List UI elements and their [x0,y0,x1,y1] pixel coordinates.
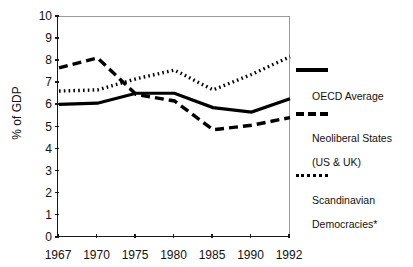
x-axis-tick-mark [288,234,290,238]
y-axis-tick-label: 4 [26,143,52,155]
y-axis-title: % of GDP [10,78,24,148]
y-axis-tick-mark [55,170,59,172]
x-axis-tick-mark [134,234,136,238]
legend-label-neoliberal-states-line1: Neoliberal States [312,132,392,144]
x-axis-tick-mark [250,234,252,238]
y-axis-tick-label: 1 [26,209,52,221]
y-axis-tick-label: 0 [26,231,52,243]
y-axis-tick-mark [55,81,59,83]
x-axis-tick-mark [57,234,59,238]
legend-label-scandinavian-democracies-line2: Democracies* [312,218,377,230]
y-axis-tick-label: 6 [26,98,52,110]
legend-label-oecd-average: OECD Average [312,90,384,102]
chart-root: % of GDP 012345678910 196719701975198019… [0,0,413,267]
y-axis-tick-mark [55,214,59,216]
legend-label-neoliberal-states-line2: (US & UK) [312,156,361,168]
plot-area [57,16,290,237]
x-axis-tick-mark [211,234,213,238]
y-axis-tick-label: 10 [26,10,52,22]
legend-swatch-oecd-average [296,68,328,72]
y-axis-tick-mark [55,126,59,128]
y-axis-tick-label: 7 [26,76,52,88]
y-axis-tick-label: 2 [26,187,52,199]
legend-label-scandinavian-democracies-line1: Scandinavian [312,194,375,206]
series-line-scandinavian-democracies [59,57,290,91]
y-axis-tick-mark [55,37,59,39]
y-axis-tick-label: 5 [26,121,52,133]
x-axis-tick-mark [96,234,98,238]
y-axis-tick-mark [55,59,59,61]
y-axis-tick-mark [55,192,59,194]
y-axis-tick-mark [55,148,59,150]
y-axis-tick-mark [55,103,59,105]
x-axis-tick-label: 1992 [264,249,314,261]
y-axis-tick-mark [55,15,59,17]
legend-swatch-neoliberal-states [296,112,328,116]
y-axis-tick-label: 8 [26,54,52,66]
y-axis-tick-label: 9 [26,32,52,44]
chart-legend: OECD Average Neoliberal States (US & UK)… [296,16,413,248]
legend-swatch-scandinavian-democracies [296,174,328,177]
x-axis-tick-mark [173,234,175,238]
series-canvas [58,17,291,238]
y-axis-tick-label: 3 [26,165,52,177]
